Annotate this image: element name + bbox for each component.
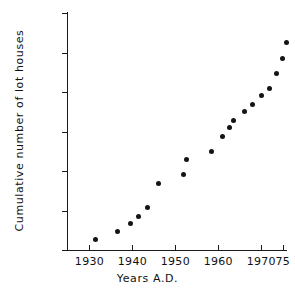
data-point — [128, 221, 133, 226]
data-point — [250, 102, 255, 107]
x-tick-label: 75 — [275, 256, 290, 267]
y-tick-mark — [62, 250, 68, 251]
data-point — [242, 109, 247, 114]
data-point — [284, 40, 289, 45]
data-point — [115, 229, 120, 234]
data-point — [145, 205, 150, 210]
data-point — [220, 134, 225, 139]
data-point — [209, 149, 214, 154]
x-axis-line — [67, 250, 287, 251]
data-point — [280, 56, 285, 61]
x-tick-label: 1950 — [161, 256, 190, 267]
data-point — [93, 237, 98, 242]
data-point — [227, 125, 232, 130]
chart-figure: 050100150200250300 193019401950196019707… — [0, 0, 295, 288]
data-point — [156, 181, 161, 186]
x-axis-label: Years A.D. — [0, 272, 295, 285]
y-axis-label: Cumulative number of lot houses — [13, 16, 26, 246]
data-point — [259, 93, 264, 98]
data-point — [181, 172, 186, 177]
data-point — [231, 118, 236, 123]
x-tick-label: 1970 — [247, 256, 276, 267]
data-point — [274, 71, 279, 76]
data-point — [184, 157, 189, 162]
x-tick-label: 1960 — [204, 256, 233, 267]
x-tick-label: 1940 — [118, 256, 147, 267]
x-tick-label: 1930 — [75, 256, 104, 267]
plot-area — [68, 13, 287, 250]
data-point — [267, 86, 272, 91]
data-point — [136, 214, 141, 219]
